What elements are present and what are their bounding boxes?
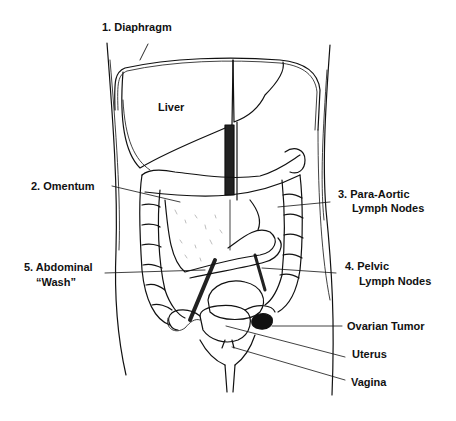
label-abdominal-wash-2: “Wash”	[36, 276, 76, 289]
label-para-aortic-1: 3. Para-Aortic	[338, 188, 410, 201]
liver	[122, 60, 284, 170]
leader-wash	[105, 270, 205, 273]
label-vagina: Vagina	[351, 376, 386, 389]
label-pelvic-2: Lymph Nodes	[359, 275, 431, 288]
bladder	[208, 281, 264, 320]
label-uterus: Uterus	[352, 348, 387, 361]
label-pelvic-1: 4. Pelvic	[345, 260, 389, 273]
leader-para-aortic	[278, 202, 330, 207]
label-liver: Liver	[158, 101, 184, 114]
leader-uterus	[226, 326, 345, 357]
leader-vagina	[232, 347, 345, 380]
label-diaphragm: 1. Diaphragm	[102, 21, 172, 34]
diaphragm	[115, 44, 320, 130]
descending-colon	[265, 175, 303, 312]
ovarian-tumor	[252, 314, 273, 329]
anatomy-diagram: 1. Diaphragm Liver 2. Omentum 3. Para-Ao…	[0, 0, 456, 421]
label-ovarian-tumor: Ovarian Tumor	[347, 320, 424, 333]
label-para-aortic-2: Lymph Nodes	[352, 202, 424, 215]
body-outline	[107, 43, 333, 395]
transverse-colon	[142, 149, 305, 197]
vagina	[200, 335, 255, 392]
label-omentum: 2. Omentum	[31, 180, 95, 193]
aorta	[190, 122, 265, 320]
omentum	[165, 200, 281, 278]
label-abdominal-wash-1: 5. Abdominal	[24, 261, 93, 274]
